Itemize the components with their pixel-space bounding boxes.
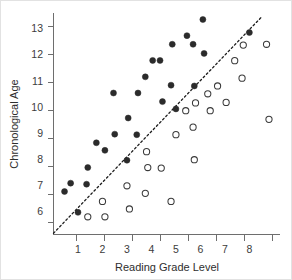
data-point bbox=[110, 90, 116, 96]
data-point bbox=[126, 206, 132, 212]
data-point bbox=[102, 214, 108, 220]
x-tick-label-7: 7 bbox=[222, 243, 228, 255]
data-point bbox=[75, 209, 81, 215]
y-tick-label-7: 7 bbox=[37, 179, 43, 191]
data-point bbox=[207, 108, 213, 114]
x-tick-labels: 12345678 bbox=[75, 243, 252, 255]
data-point bbox=[214, 83, 220, 89]
data-point bbox=[135, 90, 141, 96]
data-point bbox=[112, 131, 118, 137]
x-axis-title: Reading Grade Level bbox=[115, 261, 219, 273]
y-tick-label-13: 13 bbox=[31, 22, 43, 34]
x-tick-label-8: 8 bbox=[246, 243, 252, 255]
y-tick-label-6: 6 bbox=[37, 205, 43, 217]
data-point bbox=[124, 183, 130, 189]
data-point bbox=[102, 147, 108, 153]
data-point bbox=[68, 180, 74, 186]
x-tick-marks bbox=[77, 235, 273, 241]
data-point bbox=[143, 149, 149, 155]
data-point bbox=[142, 74, 148, 80]
data-point bbox=[190, 41, 196, 47]
data-point bbox=[150, 57, 156, 63]
y-tick-label-11: 11 bbox=[32, 75, 43, 87]
series-filled-circles bbox=[62, 17, 253, 216]
data-point bbox=[183, 108, 189, 114]
data-point bbox=[205, 91, 211, 97]
data-point bbox=[134, 132, 140, 138]
data-point bbox=[246, 30, 252, 36]
x-tick-label-2: 2 bbox=[100, 243, 106, 255]
y-tick-label-12: 12 bbox=[31, 48, 43, 60]
data-point bbox=[124, 157, 130, 163]
data-point bbox=[201, 50, 207, 56]
scatter-plot-figure: 678910111213 12345678 Reading Grade Leve… bbox=[0, 0, 292, 280]
data-point bbox=[93, 140, 99, 146]
data-point bbox=[145, 164, 151, 170]
data-point bbox=[191, 83, 197, 89]
data-point bbox=[169, 41, 175, 47]
data-point bbox=[62, 189, 68, 195]
x-tick-label-5: 5 bbox=[173, 243, 179, 255]
x-tick-label-6: 6 bbox=[197, 243, 203, 255]
plot-canvas: 678910111213 12345678 Reading Grade Leve… bbox=[1, 1, 292, 280]
reference-line-path bbox=[54, 17, 262, 233]
data-point bbox=[223, 99, 229, 105]
y-tick-marks bbox=[48, 27, 54, 223]
data-point bbox=[232, 58, 238, 64]
data-point bbox=[240, 42, 246, 48]
reference-line bbox=[54, 17, 262, 233]
data-point bbox=[191, 157, 197, 163]
data-point bbox=[173, 132, 179, 138]
data-point bbox=[263, 41, 269, 47]
data-point bbox=[142, 190, 148, 196]
data-point bbox=[239, 75, 245, 81]
data-point bbox=[184, 33, 190, 39]
x-tick-label-3: 3 bbox=[124, 243, 130, 255]
data-point bbox=[200, 17, 206, 23]
data-point bbox=[168, 82, 174, 88]
data-point bbox=[168, 198, 174, 204]
data-point bbox=[157, 57, 163, 63]
x-tick-label-4: 4 bbox=[149, 243, 155, 255]
series-open-circles bbox=[85, 41, 272, 220]
data-point bbox=[190, 124, 196, 130]
data-point bbox=[99, 198, 105, 204]
y-axis-title: Chronological Age bbox=[8, 79, 20, 168]
data-point bbox=[85, 165, 91, 171]
x-tick-label-1: 1 bbox=[75, 243, 81, 255]
data-point bbox=[84, 181, 90, 187]
y-tick-label-9: 9 bbox=[37, 127, 43, 139]
data-point bbox=[125, 115, 131, 121]
data-point bbox=[159, 99, 165, 105]
y-tick-labels: 678910111213 bbox=[31, 22, 43, 216]
data-point bbox=[266, 116, 272, 122]
data-point bbox=[85, 214, 91, 220]
y-tick-label-8: 8 bbox=[37, 153, 43, 165]
data-point bbox=[158, 165, 164, 171]
data-point bbox=[192, 100, 198, 106]
data-point bbox=[173, 106, 179, 112]
y-tick-label-10: 10 bbox=[31, 101, 43, 113]
